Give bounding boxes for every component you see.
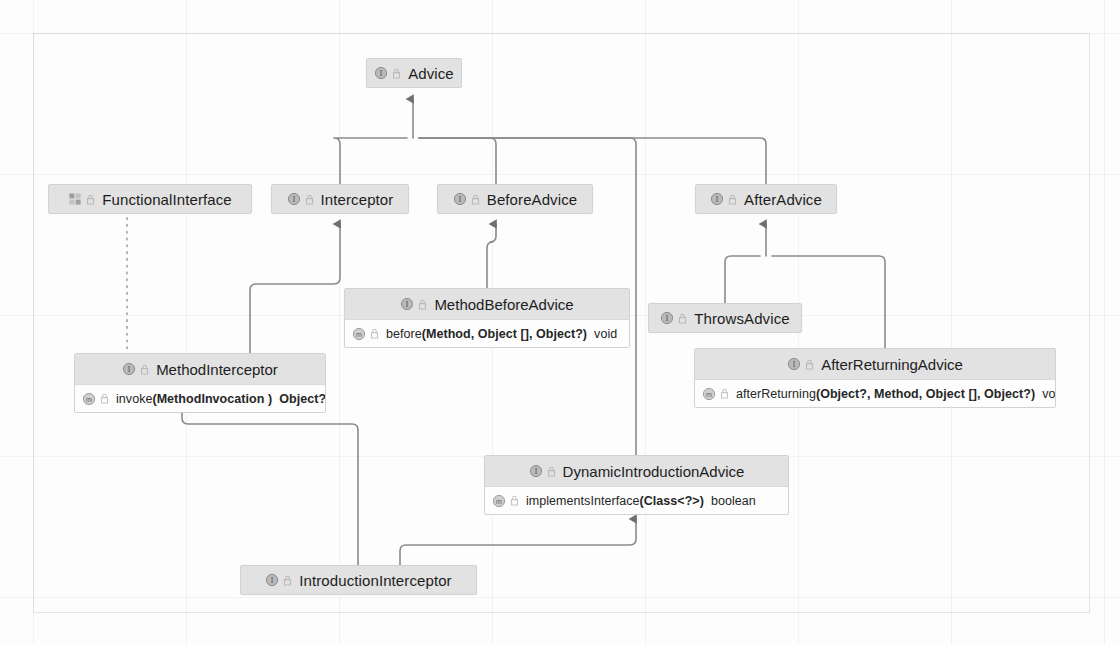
interface-icon: I [529, 464, 543, 478]
member-row[interactable]: m invoke(MethodInvocation ) Object? [75, 385, 325, 412]
svg-text:m: m [356, 331, 362, 338]
node-label: Interceptor [321, 191, 394, 208]
method-icon: m [82, 392, 96, 406]
visibility-marker-icon [805, 359, 814, 370]
node-method-interceptor[interactable]: I MethodInterceptor m invoke(MethodInvoc… [74, 353, 326, 413]
svg-text:m: m [496, 498, 502, 505]
member-row[interactable]: m afterReturning(Object?, Method, Object… [695, 380, 1055, 407]
edge-introductioninterceptor-to-dynamicintroductionadvice [400, 519, 636, 565]
visibility-marker-icon [720, 388, 729, 399]
method-icon: m [702, 387, 716, 401]
member-row[interactable]: m implementsInterface(Class<?>) boolean [485, 487, 788, 514]
member-return-type: void [1042, 387, 1056, 401]
node-title: I AfterReturningAdvice [695, 349, 1055, 380]
member-params: (Method, Object [], Object?) [422, 327, 587, 341]
node-after-advice[interactable]: I AfterAdvice [695, 184, 837, 214]
method-icon: m [352, 327, 366, 341]
node-label: MethodBeforeAdvice [434, 296, 573, 313]
visibility-marker-icon [86, 194, 95, 205]
member-return-type: Object? [279, 392, 326, 406]
node-label: AfterReturningAdvice [821, 356, 963, 373]
edge-introductioninterceptor-to-methodinterceptor [182, 409, 358, 565]
node-label: ThrowsAdvice [694, 310, 789, 327]
edge-methodbeforeadvice-to-beforeadvice [487, 224, 496, 288]
member-row[interactable]: m before(Method, Object [], Object?) voi… [345, 320, 629, 347]
visibility-marker-icon [678, 313, 687, 324]
node-introduction-interceptor[interactable]: I IntroductionInterceptor [240, 565, 477, 595]
node-interceptor[interactable]: I Interceptor [271, 184, 409, 214]
visibility-marker-icon [392, 68, 401, 79]
node-method-before-advice[interactable]: I MethodBeforeAdvice m before(Method, Ob… [344, 288, 630, 348]
edge-throwsadvice-to-afteradvice [725, 256, 760, 303]
member-name: afterReturning [736, 387, 816, 401]
svg-text:m: m [86, 396, 92, 403]
visibility-marker-icon [728, 194, 737, 205]
node-title: I DynamicIntroductionAdvice [485, 456, 788, 487]
node-label: MethodInterceptor [156, 361, 278, 378]
member-name: implementsInterface [526, 494, 640, 508]
visibility-marker-icon [471, 194, 480, 205]
interface-icon: I [374, 66, 388, 80]
visibility-marker-icon [305, 194, 314, 205]
node-before-advice[interactable]: I BeforeAdvice [437, 184, 593, 214]
interface-icon: I [787, 357, 801, 371]
edge-methodinterceptor-to-interceptor [250, 224, 340, 353]
member-return-type: boolean [711, 494, 756, 508]
node-dynamic-introduction-advice[interactable]: I DynamicIntroductionAdvice m implements… [484, 455, 789, 515]
visibility-marker-icon [370, 328, 379, 339]
member-return-type: void [594, 327, 617, 341]
visibility-marker-icon [140, 364, 149, 375]
node-label: BeforeAdvice [487, 191, 577, 208]
node-functional-interface[interactable]: FunctionalInterface [48, 184, 252, 214]
node-label: IntroductionInterceptor [299, 572, 451, 589]
member-params: (Class<?>) [640, 494, 704, 508]
interface-icon: I [122, 362, 136, 376]
interface-icon: I [660, 311, 674, 325]
interface-icon: I [453, 192, 467, 206]
node-title: I MethodBeforeAdvice [345, 289, 629, 320]
edge-afteradvice-to-advice [419, 138, 766, 188]
visibility-marker-icon [510, 495, 519, 506]
visibility-marker-icon [283, 575, 292, 586]
node-label: FunctionalInterface [102, 191, 231, 208]
edge-beforeadvice-to-advice [419, 138, 496, 188]
member-name: invoke [116, 392, 152, 406]
node-label: DynamicIntroductionAdvice [563, 463, 745, 480]
visibility-marker-icon [100, 393, 109, 404]
member-name: before [386, 327, 422, 341]
edge-afterreturningadvice-to-afteradvice [772, 256, 885, 348]
method-icon: m [492, 494, 506, 508]
edge-interceptor-to-advice [334, 138, 407, 188]
interface-icon: I [265, 573, 279, 587]
annotation-icon [68, 192, 82, 206]
node-label: Advice [408, 65, 454, 82]
node-after-returning-advice[interactable]: I AfterReturningAdvice m afterReturning(… [694, 348, 1056, 408]
node-throws-advice[interactable]: I ThrowsAdvice [648, 303, 802, 333]
node-title: I MethodInterceptor [75, 354, 325, 385]
member-params: (Object?, Method, Object [], Object?) [816, 387, 1035, 401]
interface-icon: I [400, 297, 414, 311]
node-advice[interactable]: I Advice [366, 58, 462, 88]
node-label: AfterAdvice [744, 191, 822, 208]
interface-icon: I [287, 192, 301, 206]
visibility-marker-icon [547, 466, 556, 477]
interface-icon: I [710, 192, 724, 206]
svg-text:m: m [706, 391, 712, 398]
member-params: (MethodInvocation ) [152, 392, 272, 406]
visibility-marker-icon [418, 299, 427, 310]
